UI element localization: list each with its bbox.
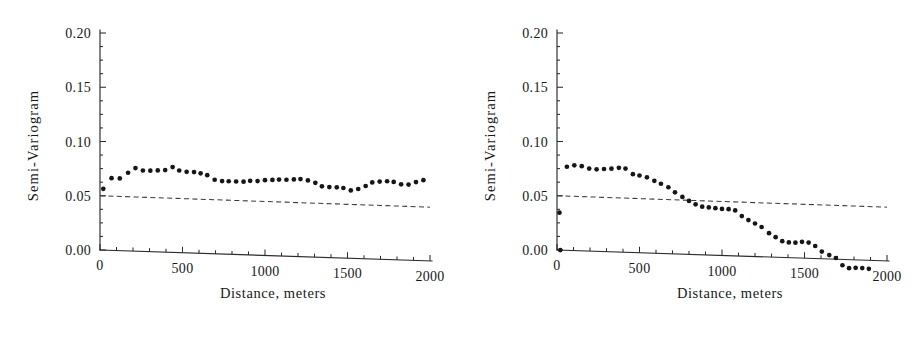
data-point [421, 178, 426, 183]
data-point [163, 168, 168, 173]
data-point [248, 178, 253, 183]
data-point [406, 182, 411, 187]
data-point [341, 186, 346, 191]
data-point [726, 207, 731, 212]
data-point [320, 184, 325, 189]
x-tick-label: 500 [172, 261, 194, 276]
data-point [277, 177, 282, 182]
data-point [706, 205, 711, 210]
data-point [786, 240, 791, 245]
x-tick-label: 1000 [707, 264, 736, 279]
x-tick-label: 500 [629, 261, 651, 276]
data-point [184, 169, 189, 174]
data-point [739, 214, 744, 219]
data-point [713, 206, 718, 211]
data-point [284, 177, 289, 182]
data-point [391, 180, 396, 185]
data-point [793, 240, 798, 245]
data-point [298, 177, 303, 182]
data-point [659, 181, 664, 186]
data-point [327, 185, 332, 190]
data-point [700, 204, 705, 209]
plot-canvas-left: 0.000.050.100.150.200500100015002000Dist… [0, 0, 457, 337]
data-point [594, 167, 599, 172]
data-point [306, 178, 311, 183]
data-point [241, 179, 246, 184]
data-point [687, 199, 692, 204]
data-point [693, 202, 698, 207]
data-point [370, 180, 375, 185]
data-point [623, 166, 628, 171]
data-point [557, 210, 562, 215]
data-point [414, 180, 419, 185]
y-tick-label: 0.10 [65, 135, 91, 150]
x-tick-label: 0 [96, 258, 103, 273]
data-point [666, 185, 671, 190]
data-point [840, 263, 845, 268]
chart-panel-right: 0.000.050.100.150.200500100015002000Dist… [457, 0, 914, 337]
data-point [631, 172, 636, 177]
data-point [853, 265, 858, 270]
data-point [767, 231, 772, 236]
data-point [834, 256, 839, 261]
data-point [177, 168, 182, 173]
reference-dashed-line [557, 196, 887, 207]
data-point [746, 218, 751, 223]
data-point [558, 248, 563, 253]
data-point [847, 266, 852, 271]
variogram-figure: 0.000.050.100.150.200500100015002000Dist… [0, 0, 914, 337]
data-point [356, 187, 361, 192]
data-point [255, 179, 260, 184]
data-point [720, 207, 725, 212]
data-point [637, 173, 642, 178]
data-point [602, 167, 607, 172]
data-point [109, 176, 114, 181]
data-point [212, 177, 217, 182]
x-tick-label: 1500 [333, 266, 362, 281]
data-point [155, 168, 160, 173]
data-point [759, 225, 764, 230]
data-point [148, 168, 153, 173]
data-point [773, 235, 778, 240]
data-point [579, 164, 584, 169]
plot-canvas-right: 0.000.050.100.150.200500100015002000Dist… [457, 0, 914, 337]
data-point [270, 178, 275, 183]
data-point [198, 171, 203, 176]
data-point [126, 170, 131, 175]
data-point [141, 168, 146, 173]
data-point [565, 164, 570, 169]
data-point [673, 190, 678, 195]
x-tick-label: 2000 [415, 269, 444, 284]
data-point [753, 221, 758, 226]
data-point [101, 186, 106, 191]
data-point [806, 240, 811, 245]
data-point [385, 179, 390, 184]
data-point [609, 166, 614, 171]
y-axis-label: Semi-Variogram [25, 90, 41, 201]
data-point [827, 253, 832, 258]
y-tick-label: 0.15 [65, 80, 91, 95]
data-point [192, 170, 197, 175]
chart-panel-left: 0.000.050.100.150.200500100015002000Dist… [0, 0, 457, 337]
y-tick-label: 0.20 [522, 26, 548, 41]
data-point [205, 173, 210, 178]
data-point [617, 165, 622, 170]
data-point [263, 178, 268, 183]
y-tick-label: 0.00 [65, 243, 91, 258]
data-point [313, 180, 318, 185]
x-axis-label: Distance, meters [220, 285, 326, 301]
data-point [819, 249, 824, 254]
y-tick-label: 0.00 [522, 243, 548, 258]
x-tick-label: 1500 [790, 266, 819, 281]
data-point [399, 182, 404, 187]
data-point [680, 195, 685, 200]
data-point [780, 239, 785, 244]
data-point [572, 163, 577, 168]
data-point [334, 185, 339, 190]
y-axis-label: Semi-Variogram [482, 90, 498, 201]
x-tick-label: 0 [553, 258, 560, 273]
y-tick-label: 0.10 [522, 135, 548, 150]
data-point [348, 188, 353, 193]
data-series-left [101, 165, 426, 193]
data-point [117, 176, 122, 181]
